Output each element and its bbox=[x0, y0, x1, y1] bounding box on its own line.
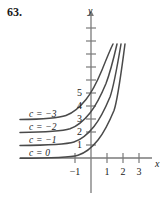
x-tick-label-1: 1 bbox=[101, 167, 113, 177]
figure-container: 63. bbox=[0, 0, 167, 201]
curve-label-c-minus-1: c = −1 bbox=[29, 136, 57, 146]
y-tick-label-3: 3 bbox=[68, 114, 82, 124]
y-tick-label-4: 4 bbox=[68, 101, 82, 111]
y-tick-label-5: 5 bbox=[68, 88, 82, 98]
x-tick-label-minus-1: −1 bbox=[67, 167, 83, 177]
y-tick-label-1: 1 bbox=[68, 140, 82, 150]
curve-label-c-minus-2: c = −2 bbox=[29, 123, 57, 133]
curve-label-c-minus-3: c = −3 bbox=[29, 110, 57, 120]
y-axis-label: y bbox=[88, 6, 92, 16]
x-tick-label-3: 3 bbox=[133, 167, 145, 177]
y-tick-label-2: 2 bbox=[68, 127, 82, 137]
curve-label-c-zero: c = 0 bbox=[29, 149, 50, 159]
x-axis-label: x bbox=[155, 159, 159, 169]
x-tick-label-2: 2 bbox=[117, 167, 129, 177]
